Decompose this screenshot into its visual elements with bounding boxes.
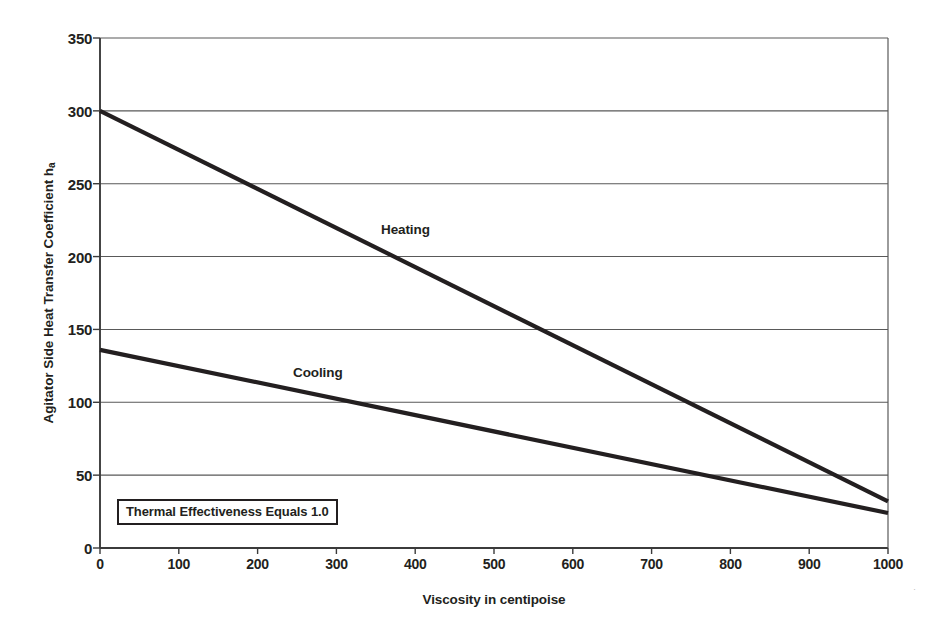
x-tick-label: 900: [779, 556, 839, 572]
plot-area: [0, 0, 940, 634]
annotation-thermal-effectiveness: Thermal Effectiveness Equals 1.0: [117, 499, 338, 525]
axis-ticks: [93, 38, 888, 554]
x-tick-label: 1000: [858, 556, 918, 572]
x-tick-label: 0: [70, 556, 130, 572]
series-label-cooling: Cooling: [293, 365, 343, 380]
series-line-cooling: [100, 350, 888, 513]
x-tick-label: 600: [543, 556, 603, 572]
x-tick-label: 700: [622, 556, 682, 572]
x-tick-label: 300: [306, 556, 366, 572]
chart-figure: Agitator Side Heat Transfer Coefficient …: [0, 0, 940, 634]
x-tick-label: 200: [228, 556, 288, 572]
x-tick-label: 400: [385, 556, 445, 572]
x-axis-title: Viscosity in centipoise: [100, 592, 888, 607]
gridlines: [100, 38, 888, 475]
x-tick-label: 800: [700, 556, 760, 572]
axis-frame: [100, 38, 888, 548]
data-series: [100, 111, 888, 513]
x-tick-label: 100: [149, 556, 209, 572]
scan-artifact: ·: [913, 585, 921, 594]
x-tick-label: 500: [464, 556, 524, 572]
series-label-heating: Heating: [381, 222, 430, 237]
series-line-heating: [100, 111, 888, 502]
x-axis-tick-labels: 01002003004005006007008009001000: [0, 556, 940, 582]
